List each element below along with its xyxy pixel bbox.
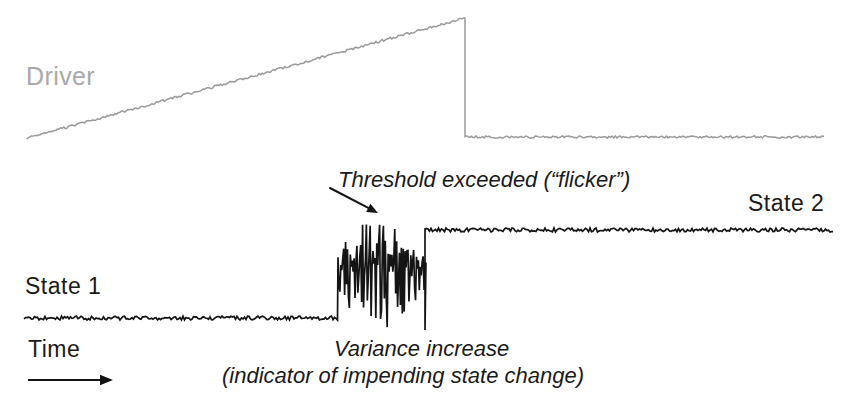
state-trace-group	[24, 224, 833, 330]
variance-annotation: Variance increase	[334, 338, 509, 360]
state-1-label: State 1	[25, 275, 101, 298]
driver-trace	[27, 18, 823, 139]
state-2-label: State 2	[748, 192, 824, 215]
indicator-annotation: (indicator of impending state change)	[222, 365, 584, 387]
driver-label: Driver	[26, 64, 95, 89]
driver-trace-group	[27, 18, 823, 139]
time-axis-label: Time	[28, 338, 80, 361]
arrow-right-icon	[28, 375, 113, 385]
state-trace	[24, 224, 833, 330]
figure-canvas: Driver State 1 State 2 Time Threshold ex…	[0, 0, 845, 418]
threshold-annotation: Threshold exceeded (“flicker”)	[338, 169, 630, 191]
